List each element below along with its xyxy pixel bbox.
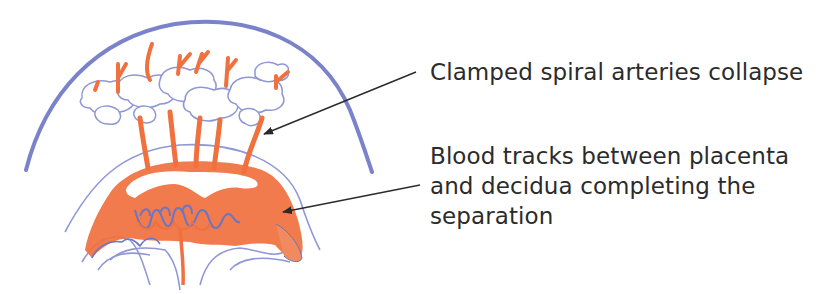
label-blood-tracks-line-3: separation [430,201,789,231]
label-spiral-arteries-line-1: Clamped spiral arteries collapse [430,59,803,85]
label-blood-tracks-line-1: Blood tracks between placenta [430,141,789,171]
label-spiral-arteries: Clamped spiral arteries collapse [430,57,803,87]
label-blood-tracks-line-2: and decidua completing the [430,171,789,201]
placental-separation-diagram: Clamped spiral arteries collapse Blood t… [0,0,824,294]
label-blood-tracks: Blood tracks between placenta and decidu… [430,141,789,231]
blood-mass [85,161,303,259]
arrow-spiral-arteries [264,72,416,134]
villi-clouds [80,62,288,125]
arrow-blood-tracks [283,185,420,212]
